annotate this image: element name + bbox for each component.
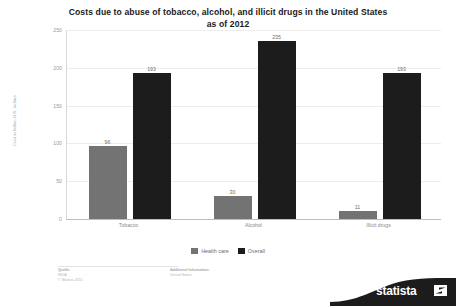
statista-arrow-mark-icon — [434, 285, 447, 296]
plot-grid: 961933023511193 — [66, 30, 441, 220]
statista-chart-page: Costs due to abuse of tobacco, alcohol, … — [0, 0, 456, 306]
x-axis-label-tobacco: Tobacco — [66, 222, 191, 228]
y-axis-tick-200: 200 — [40, 65, 62, 71]
y-axis-tick-50: 50 — [40, 178, 62, 184]
bar-group-tobacco: 96193 — [67, 30, 192, 219]
x-axis-label-illicit-drugs: Illicit drugs — [316, 222, 441, 228]
plot-area: Cost in billion U.S. dollars 05010015020… — [0, 30, 456, 240]
chart-title-block: Costs due to abuse of tobacco, alcohol, … — [28, 6, 428, 30]
bar-tobacco-health-care[interactable]: 96 — [89, 146, 127, 219]
footer-source-block: Quelle: NIDA © Statista 2015 — [58, 268, 83, 284]
statista-logo[interactable]: statista — [330, 276, 456, 306]
bar-value-label: 30 — [213, 189, 253, 195]
statista-logo-text: statista — [376, 284, 416, 298]
y-axis-title: Cost in billion U.S. dollars — [12, 73, 17, 169]
bar-illicit-drugs-overall[interactable]: 193 — [383, 73, 421, 219]
footer-divider — [58, 266, 178, 267]
footer-source-line-2: © Statista 2015 — [58, 278, 83, 283]
bar-illicit-drugs-health-care[interactable]: 11 — [339, 211, 377, 219]
bar-value-label: 11 — [338, 204, 378, 210]
legend-swatch-icon — [191, 248, 198, 254]
bar-group-alcohol: 30235 — [192, 30, 317, 219]
bar-value-label: 193 — [382, 66, 422, 72]
chart-title-line-1: Costs due to abuse of tobacco, alcohol, … — [28, 6, 428, 18]
footer-additional-block: Additional Information: United States — [170, 268, 210, 278]
bar-tobacco-overall[interactable]: 193 — [133, 73, 171, 219]
y-axis-tick-0: 0 — [40, 216, 62, 222]
bar-alcohol-overall[interactable]: 235 — [258, 41, 296, 219]
legend-label: Overall — [248, 248, 265, 254]
bar-value-label: 193 — [132, 66, 172, 72]
y-axis-tick-labels: 050100150200250 — [40, 30, 62, 220]
bar-group-illicit-drugs: 11193 — [317, 30, 442, 219]
legend-swatch-icon — [238, 248, 245, 254]
legend-item-health-care[interactable]: Health care — [191, 248, 229, 254]
x-axis-category-labels: TobaccoAlcoholIllicit drugs — [66, 222, 441, 236]
footer-additional-line-1: United States — [170, 273, 210, 278]
y-axis-tick-100: 100 — [40, 140, 62, 146]
chart-legend: Health careOverall — [0, 248, 456, 254]
bar-value-label: 235 — [257, 34, 297, 40]
bars-layer: 961933023511193 — [67, 30, 441, 219]
legend-label: Health care — [201, 248, 229, 254]
x-axis-label-alcohol: Alcohol — [191, 222, 316, 228]
y-axis-tick-150: 150 — [40, 103, 62, 109]
legend-item-overall[interactable]: Overall — [238, 248, 265, 254]
bar-value-label: 96 — [88, 139, 128, 145]
y-axis-tick-250: 250 — [40, 27, 62, 33]
chart-title-line-2: as of 2012 — [28, 18, 428, 30]
bar-alcohol-health-care[interactable]: 30 — [214, 196, 252, 219]
